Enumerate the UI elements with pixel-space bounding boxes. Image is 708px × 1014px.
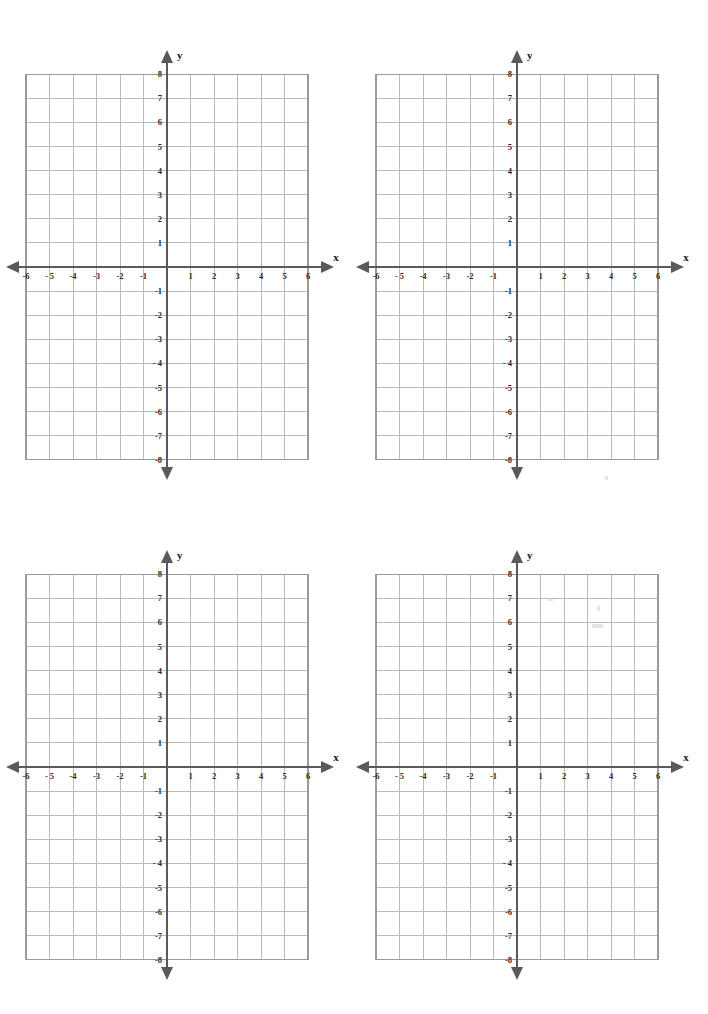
x-tick-label: 2 [562, 771, 566, 781]
x-tick-label: 4 [609, 271, 614, 281]
x-tick-label: 4 [259, 271, 264, 281]
y-tick-label: 2 [158, 214, 162, 224]
y-axis-label: y [527, 549, 533, 561]
x-axis-label: x [683, 251, 689, 263]
x-tick-label: -4 [69, 271, 77, 281]
y-tick-label: 3 [158, 190, 162, 200]
x-tick-label: -2 [116, 271, 123, 281]
y-tick-label: 6 [158, 617, 162, 627]
y-tick-label: -2 [155, 810, 162, 820]
y-tick-label: 8 [158, 69, 162, 79]
x-tick-label: -1 [140, 271, 147, 281]
x-tick-label: - 5 [45, 271, 54, 281]
y-axis-down-arrow-icon [511, 467, 523, 480]
x-tick-label: -6 [22, 771, 29, 781]
y-axis-down-arrow-icon [161, 467, 173, 480]
y-tick-label: -1 [505, 286, 512, 296]
x-axis-right-arrow-icon [671, 761, 684, 773]
scan-artifact [605, 476, 608, 480]
y-tick-label: 5 [508, 142, 512, 152]
x-tick-label: 5 [282, 771, 286, 781]
y-tick-label: 1 [158, 238, 162, 248]
y-tick-label: -6 [155, 407, 162, 417]
x-tick-label: -3 [443, 271, 450, 281]
x-tick-label: 3 [585, 771, 589, 781]
x-tick-label: -4 [69, 771, 77, 781]
y-tick-label: -1 [505, 786, 512, 796]
coordinate-grid-2: -6- 5-4-3-2-112345687654321-1-2-3- 4-5-6… [352, 46, 702, 486]
y-tick-label: -6 [155, 907, 162, 917]
x-tick-label: 2 [562, 271, 566, 281]
y-tick-label: - 4 [153, 358, 163, 368]
x-tick-label: 6 [306, 271, 310, 281]
y-tick-label: -8 [155, 455, 162, 465]
y-tick-label: -7 [505, 931, 513, 941]
x-tick-label: -1 [140, 771, 147, 781]
x-tick-label: 1 [538, 271, 542, 281]
x-tick-label: -3 [93, 771, 100, 781]
y-tick-label: -7 [505, 431, 513, 441]
y-tick-label: 8 [508, 569, 512, 579]
y-tick-label: -2 [155, 310, 162, 320]
y-tick-label: 1 [508, 738, 512, 748]
y-tick-label: -5 [155, 383, 162, 393]
x-tick-label: - 5 [45, 771, 54, 781]
x-axis-left-arrow-icon [6, 261, 19, 273]
x-tick-label: 2 [212, 271, 216, 281]
x-tick-label: 6 [306, 771, 310, 781]
x-axis-left-arrow-icon [6, 761, 19, 773]
y-tick-label: 3 [158, 690, 162, 700]
y-tick-label: -1 [155, 786, 162, 796]
x-tick-label: 5 [282, 271, 286, 281]
y-axis-up-arrow-icon [161, 50, 173, 63]
y-tick-label: -2 [505, 310, 512, 320]
y-axis-up-arrow-icon [511, 550, 523, 563]
y-tick-label: 5 [158, 142, 162, 152]
x-axis-left-arrow-icon [356, 261, 369, 273]
y-tick-label: -8 [505, 455, 512, 465]
x-tick-label: -6 [22, 271, 29, 281]
y-tick-label: -3 [505, 834, 512, 844]
x-tick-label: 1 [188, 771, 192, 781]
x-axis-label: x [333, 251, 339, 263]
y-axis-up-arrow-icon [161, 550, 173, 563]
y-tick-label: 2 [158, 714, 162, 724]
y-axis-up-arrow-icon [511, 50, 523, 63]
x-axis-left-arrow-icon [356, 761, 369, 773]
y-tick-label: 3 [508, 690, 512, 700]
y-tick-label: -7 [155, 931, 163, 941]
x-tick-label: 3 [585, 271, 589, 281]
x-tick-label: 4 [259, 771, 264, 781]
x-axis-label: x [683, 751, 689, 763]
x-tick-label: 3 [235, 271, 239, 281]
y-tick-label: -3 [505, 334, 512, 344]
x-tick-label: 5 [632, 771, 636, 781]
x-tick-label: -3 [443, 771, 450, 781]
y-tick-label: 5 [508, 642, 512, 652]
y-tick-label: 6 [158, 117, 162, 127]
y-tick-label: -7 [155, 431, 163, 441]
x-tick-label: 2 [212, 771, 216, 781]
y-tick-label: - 4 [503, 858, 513, 868]
x-tick-label: -4 [419, 771, 427, 781]
y-tick-label: - 4 [503, 358, 513, 368]
x-tick-label: 3 [235, 771, 239, 781]
x-tick-label: 6 [656, 271, 660, 281]
coordinate-grid-1: -6- 5-4-3-2-112345687654321-1-2-3- 4-5-6… [2, 46, 352, 486]
y-tick-label: 5 [158, 642, 162, 652]
y-tick-label: 1 [508, 238, 512, 248]
y-tick-label: -8 [155, 955, 162, 965]
x-tick-label: 1 [538, 771, 542, 781]
y-tick-label: -1 [155, 286, 162, 296]
x-tick-label: -2 [466, 271, 473, 281]
y-tick-label: -3 [155, 834, 162, 844]
x-tick-label: 4 [609, 771, 614, 781]
x-tick-label: -4 [419, 271, 427, 281]
y-tick-label: -3 [155, 334, 162, 344]
y-axis-down-arrow-icon [161, 967, 173, 980]
x-tick-label: -3 [93, 271, 100, 281]
y-tick-label: -6 [505, 907, 512, 917]
x-tick-label: 1 [188, 271, 192, 281]
x-tick-label: -1 [490, 771, 497, 781]
y-tick-label: 1 [158, 738, 162, 748]
